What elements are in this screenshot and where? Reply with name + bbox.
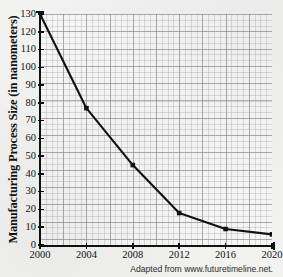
x-tick-mark-2000 [39, 243, 41, 249]
y-tick-label-50: 50 [6, 151, 36, 161]
y-tick-mark-130 [38, 13, 44, 15]
x-tick-mark-2008 [132, 243, 134, 249]
y-tick-mark-100 [38, 67, 44, 69]
y-axis-tick-labels: 1301201101009080706050403020100 [4, 0, 36, 277]
x-tick-label-2012: 2012 [159, 249, 199, 260]
y-tick-mark-120 [38, 31, 44, 33]
y-axis-line [39, 12, 41, 247]
y-tick-label-60: 60 [6, 133, 36, 143]
x-tick-mark-2012 [178, 243, 180, 249]
x-tick-label-2020: 2020 [252, 249, 283, 260]
data-line-svg [40, 14, 272, 245]
y-tick-mark-80 [38, 102, 44, 104]
y-tick-mark-20 [38, 209, 44, 211]
y-tick-label-20: 20 [6, 204, 36, 214]
y-tick-label-90: 90 [6, 80, 36, 90]
x-tick-mark-2016 [225, 243, 227, 249]
y-tick-mark-110 [38, 49, 44, 51]
y-tick-mark-50 [38, 155, 44, 157]
data-point-2008 [131, 163, 136, 168]
data-point-2004 [84, 106, 89, 111]
y-tick-mark-30 [38, 191, 44, 193]
data-point-2012 [177, 211, 182, 216]
x-axis-line [39, 245, 275, 247]
y-tick-label-30: 30 [6, 186, 36, 196]
chart-container: Manufacturing Process Size (in nanometer… [0, 0, 283, 277]
x-tick-label-2004: 2004 [66, 249, 106, 260]
y-tick-mark-10 [38, 226, 44, 228]
x-tick-label-2016: 2016 [206, 249, 246, 260]
y-tick-label-110: 110 [6, 44, 36, 54]
x-axis-tick-labels: 200020042008201220162020 [0, 249, 283, 265]
plot-area [40, 14, 272, 245]
series-markers [40, 14, 272, 237]
y-tick-mark-90 [38, 84, 44, 86]
x-tick-mark-2004 [86, 243, 88, 249]
y-tick-label-70: 70 [6, 115, 36, 125]
x-tick-label-2008: 2008 [113, 249, 153, 260]
chart-title-cropped [40, 0, 250, 9]
data-point-2016 [223, 227, 228, 232]
y-tick-mark-60 [38, 138, 44, 140]
y-tick-label-80: 80 [6, 98, 36, 108]
y-tick-label-100: 100 [6, 62, 36, 72]
attribution-text: Adapted from www.futuretimeline.net. [0, 264, 279, 274]
y-tick-label-120: 120 [6, 27, 36, 37]
x-tick-mark-2020 [271, 243, 273, 249]
y-tick-label-10: 10 [6, 222, 36, 232]
data-point-2020 [270, 232, 272, 237]
y-tick-label-130: 130 [6, 9, 36, 19]
y-tick-mark-40 [38, 173, 44, 175]
y-tick-mark-70 [38, 120, 44, 122]
series-line-manufacturing-process-size [40, 14, 272, 234]
x-tick-label-2000: 2000 [20, 249, 60, 260]
y-tick-label-40: 40 [6, 169, 36, 179]
